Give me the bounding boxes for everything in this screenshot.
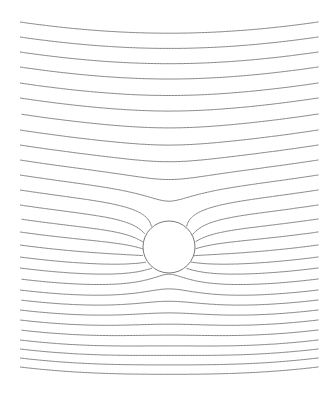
- streamline: [22, 114, 319, 128]
- streamline-diagram: [0, 0, 336, 396]
- streamline: [20, 160, 319, 180]
- streamline: [20, 37, 319, 49]
- cylinder-obstacle: [143, 221, 195, 273]
- streamline: [20, 358, 319, 365]
- streamline: [20, 52, 319, 64]
- streamline: [22, 330, 319, 336]
- streamlines-group: [20, 22, 319, 374]
- streamline: [20, 130, 319, 145]
- streamline: [20, 22, 319, 33]
- streamline: [20, 67, 319, 79]
- streamline: [20, 367, 319, 374]
- streamline: [22, 300, 319, 305]
- streamline: [20, 175, 319, 201]
- streamline: [22, 274, 319, 284]
- streamline: [20, 83, 319, 96]
- streamline: [20, 320, 319, 325]
- streamline: [20, 289, 319, 295]
- streamline: [20, 340, 319, 346]
- streamline: [20, 145, 319, 162]
- streamline: [20, 98, 319, 111]
- streamline: [20, 310, 319, 315]
- streamline: [20, 349, 319, 356]
